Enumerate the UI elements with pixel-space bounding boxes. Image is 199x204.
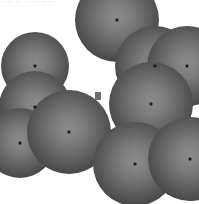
sphere-top-left-core-dot (34, 65, 37, 68)
sphere-upper-right-b-core-dot (186, 65, 189, 68)
header-text-strip: ...... ... .... .. .. .. (0, 0, 199, 9)
gray-square-artifact (95, 92, 101, 100)
sphere-stage (0, 0, 199, 204)
sphere-upper-right-a-core-dot (154, 65, 157, 68)
sphere-mid-right-core-dot (150, 103, 153, 106)
sphere-lower-left-core-dot (19, 142, 22, 145)
header-caption: ...... ... .... .. .. .. (1, 0, 52, 4)
sphere-bottom-right-core-dot (189, 158, 192, 161)
sphere-packing-figure: ...... ... .... .. .. .. (0, 0, 199, 204)
sphere-bottom-center-core-dot (134, 163, 137, 166)
sphere-mid-left-core-dot (34, 106, 37, 109)
sphere-top-center-core-dot (116, 19, 119, 22)
sphere-lower-center-core-dot (68, 131, 71, 134)
